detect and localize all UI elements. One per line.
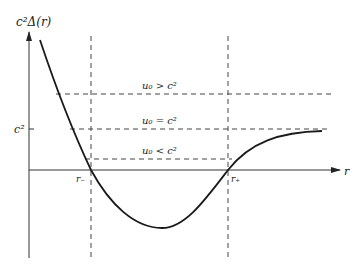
y-axis-label: c²Δ(r) <box>16 15 52 29</box>
potential-curve <box>40 40 322 228</box>
potential-diagram: c²Δ(r) r c² r₋ r₊ u₀ > c² u₀ = c² u₀ < c… <box>0 0 363 265</box>
level-less-label: u₀ < c² <box>142 145 177 156</box>
x-axis-label: r <box>344 165 350 178</box>
level-greater-label: u₀ > c² <box>142 80 177 91</box>
r-plus-label: r₊ <box>231 174 240 184</box>
y-tick-label: c² <box>14 123 25 136</box>
level-equal-label: u₀ = c² <box>142 115 177 126</box>
r-minus-label: r₋ <box>76 174 85 184</box>
